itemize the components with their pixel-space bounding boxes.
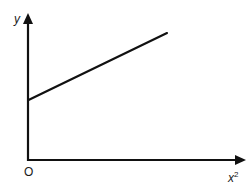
x-axis-arrow-icon (235, 155, 246, 165)
y-axis-label: y (14, 13, 20, 25)
x-axis-label: x2 (228, 171, 238, 184)
line-chart (0, 0, 252, 190)
data-line (28, 33, 167, 100)
y-axis (23, 13, 33, 161)
x-axis-label-exponent: 2 (234, 170, 238, 179)
y-axis-arrow-icon (23, 13, 33, 24)
x-axis (27, 155, 246, 165)
origin-label: O (24, 166, 33, 178)
